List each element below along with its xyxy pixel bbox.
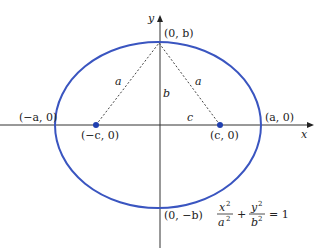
covertex-bottom-label: (0, −b) (164, 209, 203, 222)
focus-left-point (93, 122, 99, 128)
y-axis-arrow-icon (157, 15, 163, 22)
eq-b-exp: 2 (258, 215, 262, 223)
x-axis-label: x (301, 128, 308, 141)
vertex-right-label: (a, 0) (265, 111, 294, 124)
horizontal-segment-label: c (187, 111, 193, 124)
y-axis-label: y (147, 12, 155, 25)
right-slant-label: a (195, 75, 202, 88)
vertical-segment-label: b (163, 87, 170, 100)
eq-y-exp: 2 (258, 200, 262, 208)
eq-x-exp: 2 (226, 200, 230, 208)
vertex-left-label: (−a, 0) (19, 111, 57, 124)
ellipse-diagram: x y (−a, 0) (a, 0) (0, b) (0, −b) (−c, 0… (0, 0, 319, 249)
eq-equals: = 1 (269, 208, 289, 221)
ellipse-equation: x 2 a 2 + y 2 b 2 = 1 (217, 200, 289, 229)
left-slant-label: a (115, 75, 122, 88)
eq-a-exp: 2 (226, 215, 230, 223)
eq-plus: + (237, 208, 246, 221)
eq-a: a (218, 216, 225, 229)
eq-b: b (251, 216, 258, 229)
focus-left-label: (−c, 0) (81, 129, 119, 142)
covertex-top-label: (0, b) (164, 27, 194, 40)
eq-y: y (250, 201, 258, 214)
focus-right-point (217, 122, 223, 128)
segment-left-slant (96, 43, 159, 125)
focus-right-label: (c, 0) (210, 129, 239, 142)
eq-x: x (219, 201, 226, 214)
x-axis-arrow-icon (307, 122, 314, 128)
